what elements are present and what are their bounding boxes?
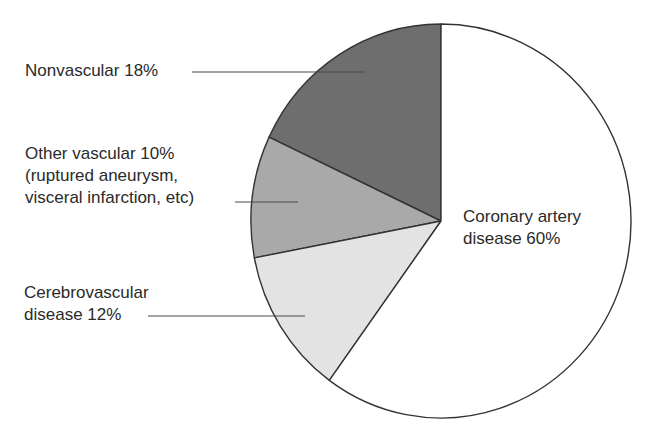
label-nonvascular-line1: Nonvascular 18% xyxy=(25,60,158,82)
label-coronary-line2: disease 60% xyxy=(463,228,581,250)
label-other-vascular: Other vascular 10% (ruptured aneurysm, v… xyxy=(25,143,194,209)
label-other-vascular-line3: visceral infarction, etc) xyxy=(25,187,194,209)
label-cerebrovascular-line1: Cerebrovascular xyxy=(24,282,149,304)
label-other-vascular-line2: (ruptured aneurysm, xyxy=(25,165,194,187)
label-cerebrovascular: Cerebrovascular disease 12% xyxy=(24,282,149,326)
label-coronary: Coronary artery disease 60% xyxy=(463,206,581,250)
label-coronary-line1: Coronary artery xyxy=(463,206,581,228)
label-cerebrovascular-line2: disease 12% xyxy=(24,304,149,326)
label-nonvascular: Nonvascular 18% xyxy=(25,60,158,82)
label-other-vascular-line1: Other vascular 10% xyxy=(25,143,194,165)
